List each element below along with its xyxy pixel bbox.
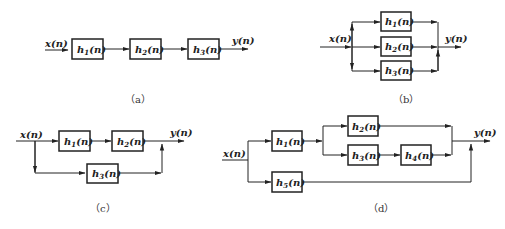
- input-label: x(n): [328, 33, 352, 44]
- caption-c: （c）: [90, 203, 116, 214]
- input-label: x(n): [222, 148, 246, 159]
- caption-b: （b）: [393, 94, 419, 105]
- output-label: y(n): [231, 35, 255, 46]
- input-label: x(n): [44, 38, 68, 49]
- output-label: y(n): [473, 127, 497, 138]
- output-label: y(n): [444, 33, 468, 44]
- panel-d-mixed: x(n) h1(n) h2(n) h3(n) h4(n) h5(n) y(n) …: [222, 116, 497, 214]
- caption-d: （d）: [368, 203, 394, 214]
- block-diagram-figure: x(n) h1(n) h2(n) h3(n) y(n) （a） x(n) h1(…: [0, 0, 505, 229]
- panel-c-series-parallel: x(n) h1(n) h2(n) h3(n) y(n) （c）: [16, 127, 193, 214]
- output-label: y(n): [169, 127, 193, 138]
- panel-a-series: x(n) h1(n) h2(n) h3(n) y(n) （a）: [44, 35, 255, 105]
- panel-b-parallel: x(n) h1(n) h2(n) h3(n) y(n) （b）: [320, 12, 468, 105]
- input-label: x(n): [19, 129, 43, 140]
- caption-a: （a）: [125, 94, 151, 105]
